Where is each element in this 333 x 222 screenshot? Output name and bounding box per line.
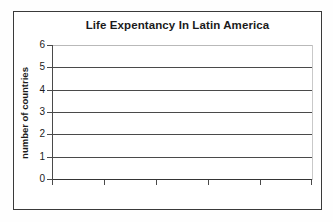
y-tick-label-2: 2 (31, 128, 45, 139)
y-tick-mark-4 (47, 90, 52, 91)
gridline-1 (52, 157, 312, 158)
x-tick-mark-5 (311, 180, 312, 185)
y-tick-mark-1 (47, 157, 52, 158)
scanned-page: Life Expentancy In Latin America number … (0, 0, 333, 222)
gridline-5 (52, 67, 312, 68)
y-tick-mark-6 (47, 45, 52, 46)
y-tick-mark-5 (47, 67, 52, 68)
y-tick-label-6: 6 (31, 39, 45, 50)
y-tick-label-4: 4 (31, 84, 45, 95)
y-axis-line (52, 45, 53, 180)
y-tick-label-0: 0 (31, 173, 45, 184)
gridline-4 (52, 90, 312, 91)
plot-area (52, 45, 312, 179)
gridline-6 (52, 45, 312, 46)
y-tick-mark-3 (47, 112, 52, 113)
y-axis-title-label: number of countries (19, 67, 30, 159)
chart-title: Life Expentancy In Latin America (40, 19, 315, 31)
y-axis-title: number of countries (17, 53, 31, 173)
plot-right-edge (312, 45, 313, 180)
x-axis-line (52, 179, 312, 180)
x-tick-mark-0 (52, 180, 53, 185)
y-tick-label-5: 5 (31, 61, 45, 72)
gridline-2 (52, 134, 312, 135)
x-tick-mark-1 (104, 180, 105, 185)
gridline-3 (52, 112, 312, 113)
x-tick-mark-2 (156, 180, 157, 185)
y-tick-label-3: 3 (31, 106, 45, 117)
x-tick-mark-4 (260, 180, 261, 185)
y-tick-label-1: 1 (31, 151, 45, 162)
x-tick-mark-3 (208, 180, 209, 185)
y-tick-mark-2 (47, 134, 52, 135)
